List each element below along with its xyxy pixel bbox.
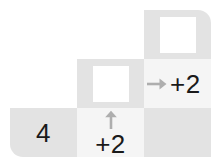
cell-top-middle <box>77 10 144 59</box>
operation-horizontal-group: +2 <box>144 59 213 108</box>
cell-top-right[interactable] <box>144 10 211 59</box>
operation-vertical-label: +2 <box>77 108 144 161</box>
arrow-right-icon <box>146 76 168 92</box>
staircase-grid: +2 4 +2 <box>10 10 210 156</box>
cell-top-left <box>10 10 77 59</box>
cell-middle-left <box>10 59 77 108</box>
cell-bottom-middle: +2 <box>77 108 144 157</box>
cell-bottom-right <box>144 108 211 157</box>
operation-horizontal-label: +2 <box>170 71 201 97</box>
answer-box-middle-middle[interactable] <box>93 66 129 102</box>
figure-canvas: +2 4 +2 <box>0 0 220 166</box>
cell-middle-right: +2 <box>144 59 211 108</box>
cell-middle-middle[interactable] <box>77 59 144 108</box>
answer-box-top-right[interactable] <box>160 17 196 53</box>
start-value-label: 4 <box>10 108 77 157</box>
cell-bottom-left: 4 <box>10 108 77 157</box>
